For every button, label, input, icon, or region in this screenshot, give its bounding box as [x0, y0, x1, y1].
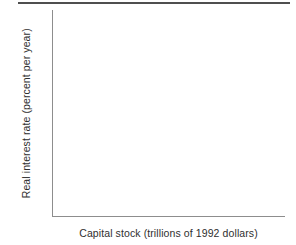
- x-axis-line: [52, 216, 285, 217]
- y-axis-label-container: Real interest rate (percent per year): [0, 10, 52, 217]
- x-axis-label-container: Capital stock (trillions of 1992 dollars…: [52, 224, 285, 242]
- figure-container: Real interest rate (percent per year) Ca…: [0, 0, 296, 245]
- top-divider-rule: [18, 2, 290, 4]
- y-axis-label: Real interest rate (percent per year): [21, 28, 32, 198]
- x-axis-label: Capital stock (trillions of 1992 dollars…: [79, 228, 258, 239]
- plot-area: [52, 10, 285, 217]
- y-axis-line: [52, 10, 53, 217]
